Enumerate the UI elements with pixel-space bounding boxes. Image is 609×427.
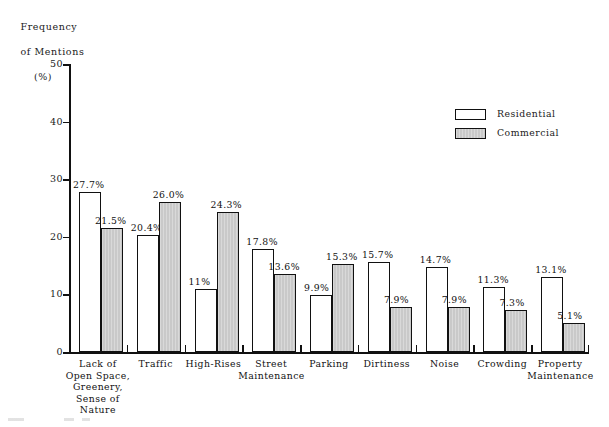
y-axis-title-line-2: of Mentions [20,46,84,57]
bar-residential-5 [368,262,390,352]
y-tick-label: 50 [35,58,63,69]
y-axis-title-line-1: Frequency [20,21,77,32]
y-tick [63,237,69,239]
y-tick-label: 30 [35,173,63,184]
bar-commercial-5 [390,307,412,353]
bar-value-label: 5.1% [557,310,582,321]
bar-value-label: 14.7% [420,254,452,265]
bar-value-label: 27.7% [73,179,105,190]
x-tick [531,345,533,352]
bar-value-label: 9.9% [304,282,329,293]
bar-value-label: 15.3% [326,251,358,262]
bar-residential-6 [426,267,448,352]
y-tick [63,294,69,296]
bar-value-label: 26.0% [153,189,185,200]
x-category-label-0: Lack of Open Space, Greenery, Sense of N… [65,358,131,416]
bar-commercial-2 [217,212,239,352]
bar-commercial-7 [505,310,527,352]
bar-chart: Frequency of Mentions (%) 01020304050 27… [0,0,609,427]
legend-swatch-residential [455,109,486,120]
bar-value-label: 11% [189,276,211,287]
x-tick [300,345,302,352]
legend-label-residential: Residential [497,108,555,119]
y-tick-label: 40 [35,115,63,126]
x-category-label-3: Street Maintenance [238,358,304,381]
x-tick [185,345,187,352]
y-tick [63,64,69,66]
y-tick-label: 10 [35,288,63,299]
y-tick [63,122,69,124]
y-tick-label: 0 [35,346,63,357]
bar-value-label: 13.1% [535,264,567,275]
bar-value-label: 20.4% [131,222,163,233]
bar-commercial-8 [563,323,585,352]
x-category-label-4: Parking [296,358,362,370]
x-tick [242,345,244,352]
x-tick [588,345,590,352]
bar-value-label: 7.9% [384,294,409,305]
legend-swatch-commercial [455,128,486,139]
x-tick [416,345,418,352]
bar-commercial-1 [159,202,181,352]
bar-value-label: 15.7% [362,249,394,260]
bar-residential-2 [195,289,217,352]
x-category-label-6: Noise [412,358,478,370]
bar-commercial-3 [274,274,296,352]
bar-value-label: 17.8% [246,236,278,247]
x-category-label-2: High-Rises [181,358,247,370]
x-tick [358,345,360,352]
bar-value-label: 21.5% [95,215,127,226]
bar-value-label: 7.3% [499,297,524,308]
y-tick-label: 20 [35,230,63,241]
page-edge-artifact [8,418,118,421]
bar-commercial-0 [101,228,123,352]
bar-value-label: 24.3% [211,199,243,210]
bar-commercial-4 [332,264,354,352]
bar-residential-1 [137,235,159,353]
bar-residential-4 [310,295,332,352]
bar-commercial-6 [448,307,470,353]
x-category-label-8: Property Maintenance [527,358,593,381]
y-tick [63,352,69,354]
x-tick [473,345,475,352]
y-tick [63,179,69,181]
legend-label-commercial: Commercial [497,127,559,138]
x-category-label-1: Traffic [123,358,189,370]
bar-value-label: 13.6% [268,261,300,272]
bar-value-label: 11.3% [477,274,509,285]
y-axis-line [69,64,71,352]
x-category-label-5: Dirtiness [354,358,420,370]
x-category-label-7: Crowding [469,358,535,370]
x-tick [127,345,129,352]
bar-value-label: 7.9% [442,294,467,305]
